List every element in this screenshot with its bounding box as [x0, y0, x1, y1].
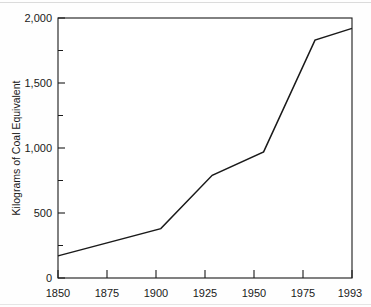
- x-tick-label-1993: 1993: [338, 287, 362, 299]
- y-tick-label-1500: 1,500: [24, 77, 52, 89]
- x-tick-label-1850: 1850: [46, 287, 70, 299]
- x-tick-label-1925: 1925: [193, 287, 217, 299]
- scan-artifact-top: [0, 2, 371, 3]
- x-tick-label-1975: 1975: [291, 287, 315, 299]
- scan-artifact-bottom: [0, 304, 371, 305]
- x-tick-label-1900: 1900: [144, 287, 168, 299]
- y-axis-title: Kilograms of Coal Equivalent: [10, 81, 22, 216]
- chart-figure: 0 500 1,000 1,500 2,000 1850 1875 1900 1…: [0, 0, 371, 307]
- y-tick-label-500: 500: [34, 207, 52, 219]
- x-tick-label-1875: 1875: [95, 287, 119, 299]
- y-axis-tick-labels: 0 500 1,000 1,500 2,000: [24, 12, 52, 284]
- x-tick-label-1950: 1950: [242, 287, 266, 299]
- y-tick-label-1000: 1,000: [24, 142, 52, 154]
- y-tick-label-2000: 2,000: [24, 12, 52, 24]
- x-axis-tick-labels: 1850 1875 1900 1925 1950 1975 1993: [46, 287, 362, 299]
- line-chart: 0 500 1,000 1,500 2,000 1850 1875 1900 1…: [0, 0, 371, 307]
- y-tick-label-0: 0: [46, 272, 52, 284]
